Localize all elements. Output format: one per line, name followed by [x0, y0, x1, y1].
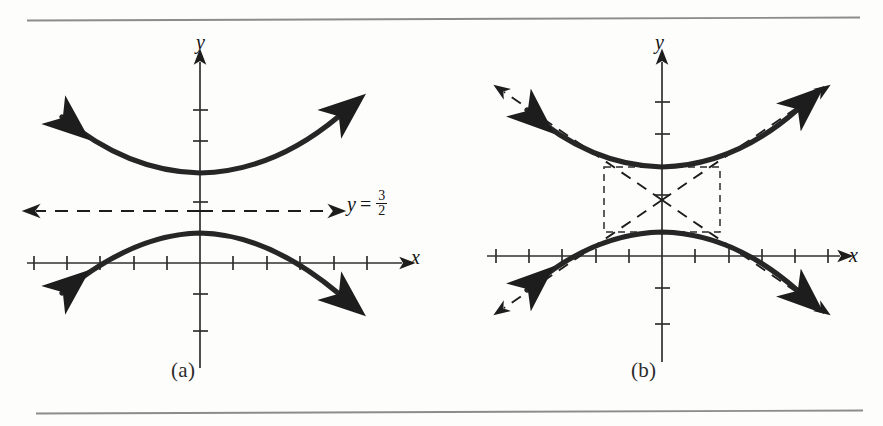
panel-b [487, 62, 840, 362]
hyperbola-figure-svg [0, 0, 883, 426]
asymptote-equation-fraction: 3 2 [376, 189, 387, 219]
bottom-rule [36, 411, 863, 414]
panel-a-y-axis-label: y [196, 31, 205, 54]
panel-b-x-axis-label: x [849, 244, 858, 267]
asymptote-equation-equals: = [360, 193, 371, 216]
fraction-denominator: 2 [376, 203, 387, 218]
panel-a-caption: (a) [171, 358, 195, 383]
fraction-numerator: 3 [376, 189, 387, 203]
panel-a-x-axis-label: x [411, 246, 420, 269]
top-rule [27, 18, 860, 21]
panel-b-y-axis-label: y [655, 31, 664, 54]
panel-b-caption: (b) [631, 358, 656, 383]
panel-a [27, 62, 402, 368]
asymptote-equation-lhs: y [347, 193, 356, 216]
figure-container: y x y = 3 2 y x (a) (b) [0, 0, 883, 426]
panel-a-asymptote-equation: y = 3 2 [347, 190, 387, 220]
